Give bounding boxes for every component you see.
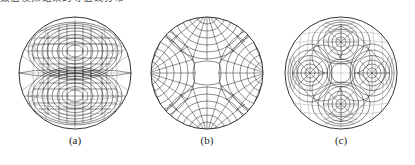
panel-label-c: (c) bbox=[281, 134, 401, 146]
caption-text-fragment: 数值模拟结果的等值线分布 bbox=[0, 0, 200, 5]
figure-root: 数值模拟结果的等值线分布 bbox=[0, 0, 415, 165]
figure-panel-a: (a) bbox=[15, 14, 135, 165]
panel-label-a: (a) bbox=[15, 134, 135, 146]
figure-panel-b: (b) bbox=[147, 14, 267, 165]
figure-panel-c: (c) bbox=[281, 14, 401, 165]
panel-label-b: (b) bbox=[147, 134, 267, 146]
contour-plot-c bbox=[281, 14, 401, 134]
contour-plot-a bbox=[15, 14, 135, 134]
contour-plot-b bbox=[147, 14, 267, 134]
